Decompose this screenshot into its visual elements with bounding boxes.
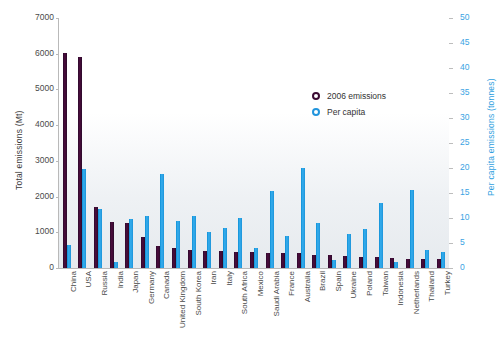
y-axis-right-tick-label: 25 bbox=[460, 137, 490, 147]
bar-group[interactable] bbox=[106, 18, 122, 268]
bar-per-capita[interactable] bbox=[98, 209, 102, 268]
bar-per-capita[interactable] bbox=[332, 260, 336, 268]
legend-item-total-emissions: 2006 emissions bbox=[312, 88, 386, 104]
bar-per-capita[interactable] bbox=[363, 229, 367, 269]
bar-group[interactable] bbox=[355, 18, 371, 268]
y-axis-right-tick-label: 5 bbox=[460, 237, 490, 247]
bar-per-capita[interactable] bbox=[114, 262, 118, 268]
y-axis-left-tick-label: 5000 bbox=[20, 83, 54, 93]
bar-group[interactable] bbox=[324, 18, 340, 268]
x-axis-category-cell: Australia bbox=[292, 271, 308, 337]
legend-label-total-emissions: 2006 emissions bbox=[327, 91, 386, 101]
emissions-bar-chart: Total emissions (Mt) Per capita emission… bbox=[0, 0, 497, 340]
bar-per-capita[interactable] bbox=[285, 236, 289, 268]
y-axis-left-tick-label: 3000 bbox=[20, 155, 54, 165]
bar-group[interactable] bbox=[418, 18, 434, 268]
bar-group[interactable] bbox=[168, 18, 184, 268]
bar-per-capita[interactable] bbox=[82, 169, 86, 268]
y-axis-right-tick-mark bbox=[449, 268, 453, 269]
y-axis-right-tick-mark bbox=[449, 218, 453, 219]
legend-marker-circle-icon bbox=[312, 92, 320, 100]
bar-group[interactable] bbox=[121, 18, 137, 268]
bar-per-capita[interactable] bbox=[316, 223, 320, 269]
x-axis-category-cell: Iran bbox=[198, 271, 214, 337]
bar-group[interactable] bbox=[199, 18, 215, 268]
bar-total-emissions[interactable] bbox=[63, 53, 67, 268]
x-axis-category-cell: Saudi Arabia bbox=[261, 271, 277, 337]
y-axis-right-tick-mark bbox=[449, 93, 453, 94]
y-axis-right-tick-label: 40 bbox=[460, 62, 490, 72]
y-axis-left-tick-label: 6000 bbox=[20, 48, 54, 58]
x-axis-category-label: Turkey bbox=[443, 271, 452, 295]
bar-per-capita[interactable] bbox=[176, 221, 180, 268]
bar-group[interactable] bbox=[153, 18, 169, 268]
bar-per-capita[interactable] bbox=[192, 216, 196, 269]
bar-group[interactable] bbox=[262, 18, 278, 268]
bar-per-capita[interactable] bbox=[207, 232, 211, 269]
bar-per-capita[interactable] bbox=[145, 216, 149, 268]
bar-per-capita[interactable] bbox=[379, 203, 383, 268]
bar-group[interactable] bbox=[184, 18, 200, 268]
bar-group[interactable] bbox=[75, 18, 91, 268]
bar-group[interactable] bbox=[246, 18, 262, 268]
bar-per-capita[interactable] bbox=[270, 191, 274, 268]
bar-per-capita[interactable] bbox=[129, 219, 133, 268]
x-axis-category-cell: India bbox=[105, 271, 121, 337]
y-axis-right-tick-mark bbox=[449, 243, 453, 244]
bar-group[interactable] bbox=[386, 18, 402, 268]
y-axis-right-tick-label: 45 bbox=[460, 37, 490, 47]
bar-group[interactable] bbox=[59, 18, 75, 268]
bar-group[interactable] bbox=[433, 18, 449, 268]
bar-group[interactable] bbox=[340, 18, 356, 268]
x-axis-category-cell: Canada bbox=[152, 271, 168, 337]
chart-legend: 2006 emissions Per capita bbox=[312, 88, 386, 120]
y-axis-right-tick-mark bbox=[449, 118, 453, 119]
y-axis-right-tick-mark bbox=[449, 168, 453, 169]
y-axis-right-ticks: 05101520253035404550 bbox=[452, 0, 482, 340]
bar-per-capita[interactable] bbox=[394, 262, 398, 268]
bar-per-capita[interactable] bbox=[301, 168, 305, 269]
y-axis-right-tick-label: 20 bbox=[460, 162, 490, 172]
bar-group[interactable] bbox=[402, 18, 418, 268]
bar-group[interactable] bbox=[371, 18, 387, 268]
x-axis-category-cell: South Korea bbox=[183, 271, 199, 337]
bar-group[interactable] bbox=[277, 18, 293, 268]
bar-group[interactable] bbox=[293, 18, 309, 268]
bar-per-capita[interactable] bbox=[238, 218, 242, 268]
x-axis-category-cell: Brazil bbox=[308, 271, 324, 337]
y-axis-right-tick-mark bbox=[449, 143, 453, 144]
bar-per-capita[interactable] bbox=[441, 252, 445, 269]
bar-per-capita[interactable] bbox=[223, 228, 227, 268]
bar-per-capita[interactable] bbox=[425, 250, 429, 269]
bar-per-capita[interactable] bbox=[160, 174, 164, 268]
y-axis-right-tick-mark bbox=[449, 68, 453, 69]
bar-group[interactable] bbox=[215, 18, 231, 268]
plot-area bbox=[58, 18, 449, 269]
x-axis-category-cell: Spain bbox=[323, 271, 339, 337]
bar-per-capita[interactable] bbox=[347, 234, 351, 269]
x-axis-category-cell: Poland bbox=[354, 271, 370, 337]
bar-group[interactable] bbox=[137, 18, 153, 268]
x-axis-category-cell: Turkey bbox=[432, 271, 448, 337]
y-axis-left-tick-label: 4000 bbox=[20, 119, 54, 129]
y-axis-right-tick-mark bbox=[449, 43, 453, 44]
bar-per-capita[interactable] bbox=[254, 248, 258, 269]
y-axis-left-ticks: 01000200030004000500060007000 bbox=[20, 0, 54, 340]
bar-group[interactable] bbox=[309, 18, 325, 268]
x-axis-category-cell: Japan bbox=[120, 271, 136, 337]
y-axis-right-tick-label: 30 bbox=[460, 112, 490, 122]
y-axis-left-tick-label: 7000 bbox=[20, 12, 54, 22]
x-axis-category-cell: USA bbox=[74, 271, 90, 337]
x-axis-category-cell: Taiwan bbox=[370, 271, 386, 337]
x-axis-category-cell: Mexico bbox=[245, 271, 261, 337]
x-axis-category-cell: South Africa bbox=[230, 271, 246, 337]
bar-group[interactable] bbox=[231, 18, 247, 268]
x-axis-category-cell: Thailand bbox=[417, 271, 433, 337]
bar-per-capita[interactable] bbox=[67, 245, 71, 268]
x-axis-category-cell: Italy bbox=[214, 271, 230, 337]
x-axis-category-cell: United Kingdom bbox=[167, 271, 183, 337]
bar-group[interactable] bbox=[90, 18, 106, 268]
y-axis-right-tick-label: 35 bbox=[460, 87, 490, 97]
bar-per-capita[interactable] bbox=[410, 190, 414, 269]
y-axis-left-tick-label: 1000 bbox=[20, 226, 54, 236]
